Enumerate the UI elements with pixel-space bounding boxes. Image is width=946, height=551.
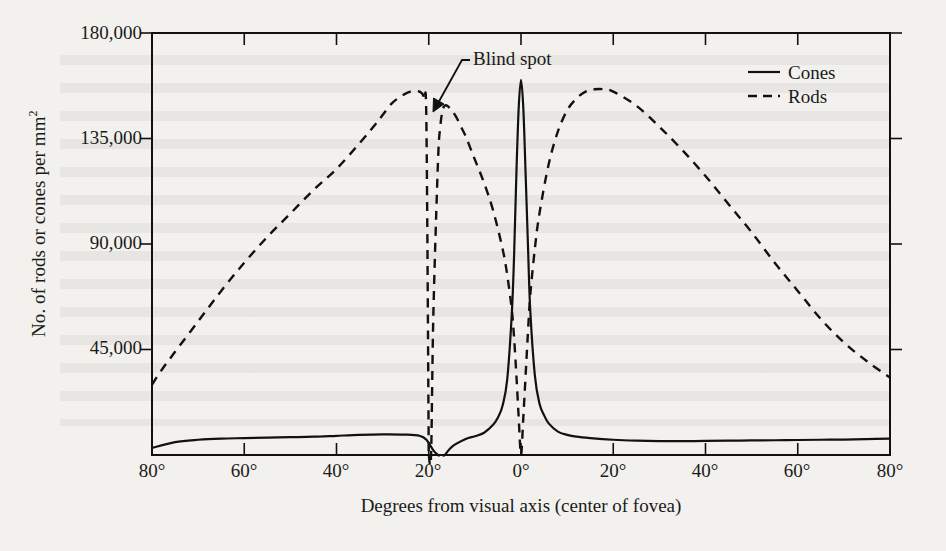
plot-canvas — [0, 0, 946, 551]
blind-spot-arrow-line — [437, 60, 470, 105]
legend-swatches — [748, 72, 780, 96]
rods-curve-right-of-blind-spot — [429, 89, 890, 465]
rods-and-cones-density-chart: No. of rods or cones per mm2 180,000 135… — [0, 0, 946, 551]
figure-page: No. of rods or cones per mm2 180,000 135… — [0, 0, 946, 551]
axis-tick-marks — [140, 33, 902, 455]
rods-curve — [152, 91, 429, 455]
blind-spot-arrow-head — [433, 98, 444, 112]
blind-spot-arrow — [433, 60, 470, 112]
